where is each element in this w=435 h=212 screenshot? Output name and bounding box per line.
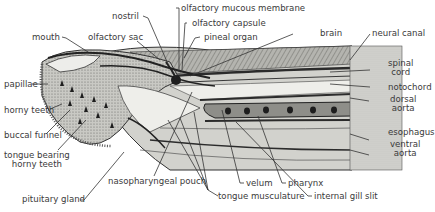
label-dorsal-aorta: dorsal aorta — [390, 95, 416, 113]
label-esophagus: esophagus — [388, 128, 435, 137]
label-olfactory-capsule: olfactory capsule — [192, 19, 266, 28]
label-horny-teeth: horny teeth — [4, 106, 54, 115]
label-tongue-musculature: tongue musculature — [218, 192, 305, 201]
label-pituitary-gland: pituitary gland — [22, 195, 85, 204]
label-nasopharyngeal-pouch: nasopharyngeal pouch — [108, 177, 206, 186]
label-spinal-cord: spinal cord — [388, 59, 413, 77]
label-dorsal-aorta-line2: aorta — [390, 104, 416, 113]
label-pharynx: pharynx — [288, 179, 323, 188]
label-pineal-organ: pineal organ — [204, 33, 258, 42]
label-nostril: nostril — [112, 12, 139, 21]
label-buccal-funnel: buccal funnel — [4, 131, 62, 140]
label-brain: brain — [320, 29, 342, 38]
label-velum: velum — [246, 179, 273, 188]
label-tongue-bearing-line2: horny teeth — [4, 160, 70, 169]
label-olfactory-mucous-membrane: olfactory mucous membrane — [181, 4, 305, 13]
label-spinal-cord-line2: cord — [388, 68, 413, 77]
label-tongue-bearing-horny-teeth: tongue bearing horny teeth — [4, 151, 70, 169]
label-ventral-aorta-line2: aorta — [390, 149, 420, 158]
label-mouth: mouth — [32, 33, 60, 42]
label-papillae: papillae — [4, 80, 38, 89]
label-ventral-aorta: ventral aorta — [390, 140, 420, 158]
label-notochord: notochord — [388, 83, 432, 92]
label-olfactory-sac: olfactory sac — [88, 33, 143, 42]
label-neural-canal: neural canal — [372, 29, 425, 38]
label-internal-gill-slit: internal gill slit — [314, 192, 378, 201]
